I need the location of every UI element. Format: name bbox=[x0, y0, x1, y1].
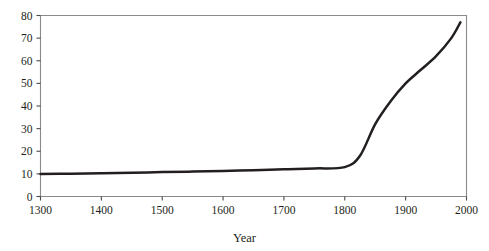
x-tick-label: 2000 bbox=[455, 204, 478, 216]
x-tick-label: 1400 bbox=[90, 204, 113, 216]
x-tick-label: 1700 bbox=[272, 204, 295, 216]
x-tick-label: 1800 bbox=[333, 204, 356, 216]
x-tick-label: 1600 bbox=[212, 204, 235, 216]
y-tick-label: 20 bbox=[21, 145, 33, 157]
y-axis-ticks: 01020304050607080 bbox=[21, 10, 41, 203]
x-axis-title: Year bbox=[233, 231, 257, 245]
chart-figure: 01020304050607080 1300140015001600170018… bbox=[0, 0, 489, 251]
x-tick-label: 1300 bbox=[29, 204, 52, 216]
y-tick-label: 80 bbox=[21, 10, 33, 22]
y-tick-label: 70 bbox=[21, 32, 33, 44]
y-tick-label: 10 bbox=[21, 168, 33, 180]
y-tick-label: 60 bbox=[21, 55, 33, 67]
y-tick-label: 40 bbox=[21, 100, 33, 112]
line-chart: 01020304050607080 1300140015001600170018… bbox=[0, 0, 489, 251]
x-tick-label: 1900 bbox=[394, 204, 417, 216]
y-tick-label: 0 bbox=[27, 191, 33, 203]
y-tick-label: 30 bbox=[21, 123, 33, 135]
x-tick-label: 1500 bbox=[151, 204, 174, 216]
y-tick-label: 50 bbox=[21, 77, 33, 89]
